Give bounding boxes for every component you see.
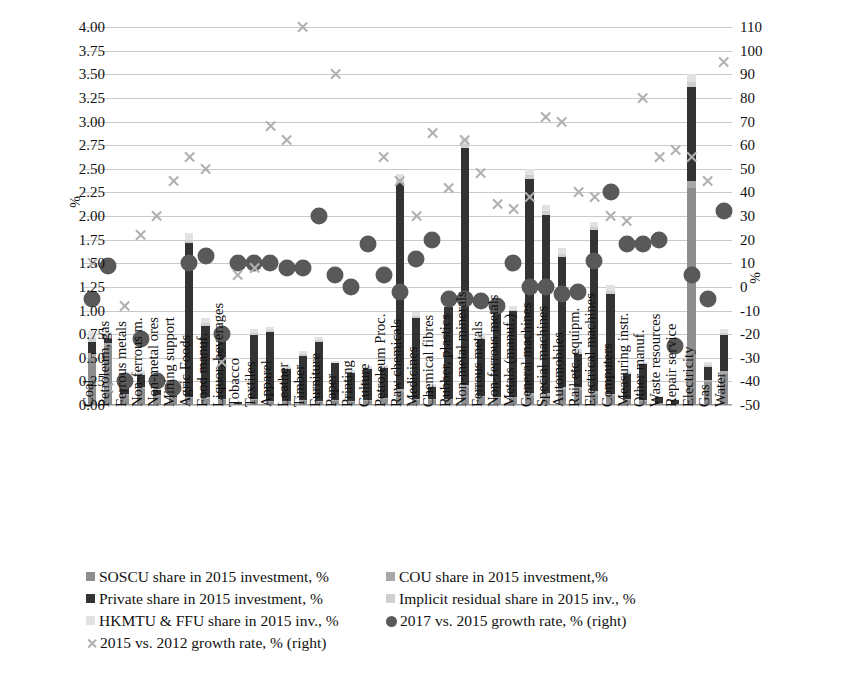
x-axis-tick-label: Tobacco [226, 358, 243, 407]
growth-dot-marker [181, 255, 198, 272]
growth-x-marker [377, 150, 390, 163]
x-axis-tick-label: Mining support [161, 317, 178, 407]
x-axis-category-labels: CoalPetroleum, gasFerrous metalsNon-ferr… [84, 407, 732, 557]
x-axis-tick-label: Electrical machines [582, 293, 599, 407]
legend-label: 2017 vs. 2015 growth rate, % (right) [400, 610, 626, 632]
growth-dot-marker [262, 255, 279, 272]
legend-item[interactable]: 2017 vs. 2015 growth rate, % (right) [386, 610, 746, 632]
bar-segment-hkmtu [687, 74, 695, 82]
growth-x-marker [231, 269, 244, 282]
legend-label: COU share in 2015 investment,% [399, 566, 608, 588]
growth-x-marker [669, 143, 682, 156]
growth-x-marker [183, 150, 196, 163]
legend-label: 2015 vs. 2012 growth rate, % (right) [100, 632, 326, 654]
growth-dot-marker [505, 255, 522, 272]
legend-item[interactable]: COU share in 2015 investment,% [386, 566, 746, 588]
growth-dot-marker [343, 278, 360, 295]
y-axis-left-tick-label: 4.00 [45, 20, 105, 35]
legend-item[interactable] [386, 632, 746, 654]
legend-row: SOSCU share in 2015 investment, %COU sha… [86, 566, 786, 588]
x-axis-tick-label: Electricity [680, 347, 697, 407]
growth-x-marker [685, 150, 698, 163]
x-axis-tick-label: Furniture [307, 353, 324, 407]
legend-square-icon [86, 616, 95, 625]
legend-label: SOSCU share in 2015 investment, % [99, 566, 329, 588]
y-axis-left-tick-label: 3.25 [45, 90, 105, 105]
x-axis-tick-label: Textiles [242, 361, 259, 407]
gridline [84, 74, 732, 75]
legend-item[interactable]: HKMTU & FFU share in 2015 inv., % [86, 610, 386, 632]
y-axis-left-tick-label: 2.00 [45, 209, 105, 224]
growth-x-marker [134, 228, 147, 241]
growth-x-marker [653, 150, 666, 163]
legend-item[interactable]: 2015 vs. 2012 growth rate, % (right) [86, 632, 386, 654]
growth-dot-marker [278, 259, 295, 276]
growth-x-marker [248, 261, 261, 274]
growth-x-marker [620, 214, 633, 227]
x-axis-tick-label: Chemical fibres [420, 315, 437, 407]
legend-label: HKMTU & FFU share in 2015 inv., % [99, 610, 339, 632]
x-axis-tick-label: Printing [339, 360, 356, 407]
x-axis-tick-label: Measuring instr. [615, 313, 632, 407]
x-axis-tick-label: Petroleum, gas [96, 321, 113, 407]
bar-segment-private [704, 367, 712, 379]
legend-item[interactable]: Private share in 2015 investment, % [86, 588, 386, 610]
y-axis-left-tick-label: 1.75 [45, 232, 105, 247]
legend-x-icon [86, 638, 97, 649]
chart-legend: SOSCU share in 2015 investment, %COU sha… [86, 566, 786, 654]
legend-square-icon [86, 594, 95, 603]
gridline [84, 216, 732, 217]
x-axis-tick-label: Ferrous metals [469, 321, 486, 407]
x-axis-tick-label: Water [712, 373, 729, 407]
y-axis-right-tick-label: 90 [740, 67, 800, 82]
y-axis-right-tick-label: 40 [740, 185, 800, 200]
growth-dot-marker [197, 248, 214, 265]
x-axis-tick-label: Non-ferrous metals [485, 295, 502, 407]
growth-dot-marker [359, 236, 376, 253]
y-axis-left-tick-label: 1.50 [45, 256, 105, 271]
y-axis-right-tick-label: 100 [740, 43, 800, 58]
y-axis-right-tick-label: 10 [740, 256, 800, 271]
x-axis-tick-label: Apparel [258, 360, 275, 407]
legend-circle-icon [386, 616, 397, 627]
growth-dot-marker [602, 184, 619, 201]
y-axis-left-tick-label: 1.25 [45, 279, 105, 294]
y-axis-right-tick-label: 60 [740, 138, 800, 153]
x-axis-tick-label: Liquor, beverages [210, 303, 227, 407]
x-axis-tick-label: Coal [80, 380, 97, 407]
growth-x-marker [523, 191, 536, 204]
legend-item[interactable]: SOSCU share in 2015 investment, % [86, 566, 386, 588]
growth-x-marker [150, 210, 163, 223]
growth-x-marker [588, 191, 601, 204]
y-axis-right-tick-label: 70 [740, 114, 800, 129]
y-axis-left-title: % [68, 196, 84, 208]
x-axis-tick-label: Automobiles [550, 332, 567, 407]
growth-x-marker [199, 162, 212, 175]
y-axis-right-tick-label: -30 [740, 350, 800, 365]
legend-square-icon [386, 572, 395, 581]
gridline [84, 145, 732, 146]
growth-dot-marker [375, 267, 392, 284]
y-axis-left-tick-label: 2.50 [45, 161, 105, 176]
y-axis-right-title: % [748, 272, 764, 284]
growth-dot-marker [521, 278, 538, 295]
y-axis-right-tick-label: 80 [740, 90, 800, 105]
gridline [84, 169, 732, 170]
x-axis-tick-label: Raw chemicals [388, 319, 405, 407]
growth-dot-marker [391, 283, 408, 300]
x-axis-tick-label: Timber [291, 365, 308, 407]
growth-dot-marker [586, 252, 603, 269]
y-axis-right-tick-label: 20 [740, 232, 800, 247]
growth-x-marker [442, 181, 455, 194]
legend-row: Private share in 2015 investment, %Impli… [86, 588, 786, 610]
growth-x-marker [118, 299, 131, 312]
growth-x-marker [539, 110, 552, 123]
bar-segment-private [720, 335, 728, 371]
x-axis-tick-label: Non-metal ores [145, 317, 162, 407]
y-axis-right-tick-label: -40 [740, 374, 800, 389]
x-axis-tick-label: General machines [518, 303, 535, 407]
legend-item[interactable]: Implicit residual share in 2015 inv., % [386, 588, 746, 610]
y-axis-left-tick-label: 3.50 [45, 67, 105, 82]
growth-x-marker [264, 120, 277, 133]
legend-square-icon [386, 594, 395, 603]
